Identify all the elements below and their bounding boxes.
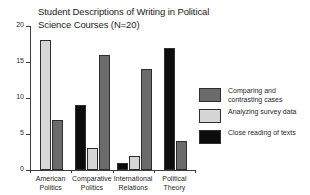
x-axis-group-label: Political Theory bbox=[150, 175, 199, 192]
bar-group bbox=[164, 26, 187, 170]
legend-swatch bbox=[199, 130, 221, 144]
y-axis-tick: 5 bbox=[26, 134, 30, 135]
x-axis-tick bbox=[113, 170, 114, 173]
y-axis-tick-label: 10 bbox=[16, 93, 24, 100]
y-axis-tick-label: 5 bbox=[20, 129, 24, 136]
y-axis-tick: 10 bbox=[26, 98, 30, 99]
y-axis-tick-label: 20 bbox=[16, 21, 24, 28]
y-axis-tick-label: 15 bbox=[16, 57, 24, 64]
x-axis-tick bbox=[30, 170, 31, 173]
legend-item[interactable]: Comparing and contrasting cases bbox=[199, 88, 307, 102]
legend-swatch bbox=[199, 88, 221, 102]
y-axis-line bbox=[30, 26, 31, 170]
bar[interactable] bbox=[52, 120, 63, 170]
bar[interactable] bbox=[40, 40, 51, 170]
bar[interactable] bbox=[176, 141, 187, 170]
bar[interactable] bbox=[87, 148, 98, 170]
x-axis-tick bbox=[195, 170, 196, 173]
legend-item[interactable]: Analyzing survey data bbox=[199, 109, 307, 123]
y-axis-tick-label: 0 bbox=[20, 165, 24, 172]
legend-label: Analyzing survey data bbox=[228, 108, 296, 117]
legend-swatch bbox=[199, 109, 221, 123]
bar[interactable] bbox=[141, 69, 152, 170]
bar-group bbox=[75, 26, 110, 170]
plot-area: 05101520 American PoliticsComparative Po… bbox=[30, 26, 195, 170]
bar[interactable] bbox=[99, 55, 110, 170]
x-axis-tick bbox=[154, 170, 155, 173]
bar[interactable] bbox=[164, 48, 175, 170]
bar-group bbox=[117, 26, 152, 170]
chart-legend: Comparing and contrasting casesAnalyzing… bbox=[199, 88, 307, 151]
legend-label: Comparing and contrasting cases bbox=[228, 87, 282, 104]
bar[interactable] bbox=[75, 105, 86, 170]
legend-item[interactable]: Close reading of texts bbox=[199, 130, 307, 144]
x-axis-tick bbox=[71, 170, 72, 173]
y-axis-tick: 15 bbox=[26, 62, 30, 63]
y-axis-tick: 20 bbox=[26, 26, 30, 27]
bar-group bbox=[40, 26, 63, 170]
chart-page: Student Descriptions of Writing in Polit… bbox=[0, 0, 310, 195]
legend-label: Close reading of texts bbox=[228, 129, 296, 138]
bar[interactable] bbox=[117, 163, 128, 170]
bar[interactable] bbox=[129, 156, 140, 170]
